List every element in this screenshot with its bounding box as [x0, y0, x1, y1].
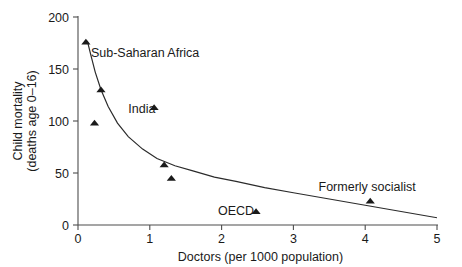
- x-axis-ticks: 012345: [75, 225, 441, 246]
- point-annotation-label: Sub-Saharan Africa: [91, 46, 199, 60]
- data-point-marker: [167, 175, 176, 181]
- data-point-marker: [96, 87, 105, 93]
- y-tick-label: 100: [48, 115, 69, 129]
- point-annotation-label: India: [128, 102, 155, 116]
- x-tick-label: 5: [434, 232, 441, 246]
- x-tick-label: 2: [218, 232, 225, 246]
- y-tick-label: 50: [55, 167, 69, 181]
- child-mortality-scatter-chart: 012345 050100150200 Sub-Saharan AfricaIn…: [0, 0, 462, 267]
- data-point-marker: [81, 39, 90, 45]
- point-annotation-label: OECD: [218, 204, 254, 218]
- data-point-marker: [90, 120, 99, 126]
- chart-canvas: 012345 050100150200 Sub-Saharan AfricaIn…: [0, 0, 462, 267]
- y-axis-ticks: 050100150200: [48, 11, 78, 233]
- data-point-marker: [366, 198, 375, 204]
- x-tick-label: 3: [290, 232, 297, 246]
- y-tick-label: 150: [48, 63, 69, 77]
- x-tick-label: 4: [362, 232, 369, 246]
- point-annotation-label: Formerly socialist: [319, 180, 417, 194]
- x-tick-label: 1: [146, 232, 153, 246]
- y-tick-label: 200: [48, 11, 69, 25]
- x-tick-label: 0: [75, 232, 82, 246]
- y-axis-title-line2: (deaths age 0–16): [25, 70, 39, 171]
- y-tick-label: 0: [62, 219, 69, 233]
- x-axis-title: Doctors (per 1000 population): [178, 250, 343, 264]
- point-annotations: Sub-Saharan AfricaIndiaOECDFormerly soci…: [91, 46, 416, 218]
- y-axis-title-line1: Child mortality: [11, 81, 25, 161]
